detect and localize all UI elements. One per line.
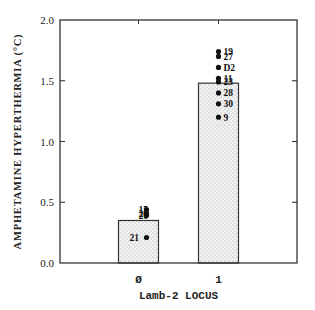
data-point: D2 [216, 63, 235, 73]
point-label: 21 [130, 233, 140, 243]
plot-frame [60, 20, 297, 263]
y-tick-label: 1.5 [40, 75, 54, 87]
y-tick-label: 1.0 [40, 136, 54, 148]
y-axis-title: AMPHETAMINE HYPERTHERMIA (°C) [13, 34, 24, 250]
point-label: 9 [224, 113, 229, 123]
point-label: 23 [224, 77, 234, 87]
y-tick-label: 2.0 [40, 14, 54, 26]
bar-chart: 0.00.51.01.52.0 Ø1 152620211927D21123283… [0, 0, 315, 310]
point-label: D2 [224, 63, 236, 73]
y-axis-ticks: 0.00.51.01.52.0 [40, 14, 297, 269]
point-label: 28 [224, 88, 234, 98]
point-marker [216, 54, 221, 59]
point-marker [216, 49, 221, 54]
data-point: 20 [139, 211, 150, 221]
point-marker [216, 101, 221, 106]
y-axis-title-container: AMPHETAMINE HYPERTHERMIA (°C) [6, 20, 30, 263]
point-marker [216, 79, 221, 84]
point-marker [144, 235, 149, 240]
y-tick-label: 0.0 [40, 257, 54, 269]
point-marker [216, 90, 221, 95]
y-tick-label: 0.5 [40, 196, 54, 208]
x-axis-title: Lamb-2 LOCUS [60, 290, 297, 302]
axes-box [60, 20, 297, 263]
point-marker [216, 65, 221, 70]
x-tick-label: 1 [215, 274, 222, 286]
point-label: 27 [224, 52, 234, 62]
point-label: 20 [139, 211, 149, 221]
point-label: 30 [224, 99, 234, 109]
point-marker [216, 115, 221, 120]
x-tick-label: Ø [135, 274, 142, 286]
bar-1 [199, 83, 239, 263]
